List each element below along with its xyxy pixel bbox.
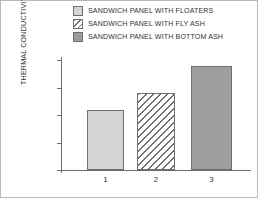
x-tick-label-3: 3 [209,175,213,184]
y-axis-title: THERMAL CONDUCTIVITY (W/ m K) [19,0,28,85]
legend-swatch-fly-ash-icon [73,19,83,29]
legend-item-floaters: SANDWICH PANEL WITH FLOATERS [73,5,223,17]
y-tick-mark-000 [57,170,62,171]
legend-label-bottom-ash: SANDWICH PANEL WITH BOTTOM ASH [88,33,223,41]
plot-area: THERMAL CONDUCTIVITY (W/ m K) 0.20 0.15 … [61,59,251,171]
x-tick-label-2: 2 [154,175,158,184]
legend-item-fly-ash: SANDWICH PANEL WITH FLY ASH [73,18,223,30]
legend-label-floaters: SANDWICH PANEL WITH FLOATERS [88,7,213,15]
x-tick-label-1: 1 [103,175,107,184]
bar-floaters [87,110,124,171]
legend-item-bottom-ash: SANDWICH PANEL WITH BOTTOM ASH [73,31,223,43]
bar-fly-ash [137,93,175,170]
legend-swatch-floaters-icon [73,6,83,16]
legend-label-fly-ash: SANDWICH PANEL WITH FLY ASH [88,20,205,28]
chart-figure: SANDWICH PANEL WITH FLOATERS SANDWICH PA… [0,0,258,198]
y-tick-mark-010 [57,115,62,116]
chart-legend: SANDWICH PANEL WITH FLOATERS SANDWICH PA… [73,5,223,43]
legend-swatch-bottom-ash-icon [73,32,83,42]
y-tick-mark-020 [57,60,62,61]
y-tick-mark-005 [57,143,62,144]
x-axis-line [61,170,251,171]
y-tick-mark-015 [57,88,62,89]
bar-bottom-ash [191,66,232,171]
